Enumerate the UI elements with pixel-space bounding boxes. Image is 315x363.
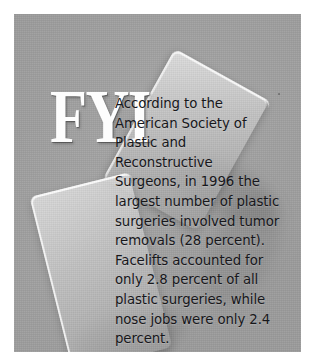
fyi-sidebar: FYI According to the American Society of… (0, 0, 315, 363)
fyi-panel: FYI According to the American Society of… (14, 14, 301, 352)
fyi-body-paragraph: According to the American Society of Pla… (115, 94, 281, 349)
fyi-body-text: According to the American Society of Pla… (115, 94, 281, 349)
